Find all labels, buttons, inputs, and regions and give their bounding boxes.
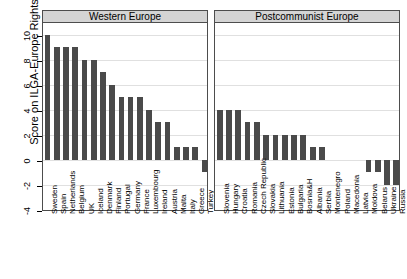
bar — [300, 135, 306, 160]
x-axis-tick-label: Montenegro — [333, 171, 343, 214]
x-axis-tick-label: Bosnia&H — [305, 178, 315, 214]
y-axis-tick: 2 — [0, 136, 42, 137]
bar — [54, 47, 60, 160]
bar — [155, 122, 161, 160]
x-axis-tick-label: Ireland — [160, 190, 170, 214]
bar — [183, 147, 189, 160]
y-axis-tick: 10 — [0, 36, 42, 37]
panel-title-western-europe: Western Europe — [42, 10, 208, 23]
bar — [217, 110, 223, 160]
bar — [128, 97, 134, 160]
bar — [319, 147, 325, 160]
x-axis-tick-label: Moldova — [370, 184, 380, 214]
y-axis-tick-label: 2 — [20, 128, 34, 144]
bar — [119, 97, 125, 160]
gridline — [215, 160, 399, 161]
x-axis-tick-label: Portugal — [123, 184, 133, 214]
gridline — [215, 60, 399, 61]
y-axis: 1086420-2-4 — [0, 0, 42, 279]
bar — [310, 147, 316, 160]
bar — [192, 147, 198, 160]
y-axis-tick: 6 — [0, 86, 42, 87]
chart-figure: Score on ILGA-Europe Rights Index 108642… — [0, 0, 407, 279]
bar — [282, 135, 288, 160]
plot-area-western-europe — [42, 23, 208, 211]
bar — [263, 135, 269, 160]
bar — [165, 122, 171, 160]
bar — [45, 35, 51, 160]
y-axis-tick-label: 0 — [20, 153, 34, 169]
x-axis-tick-label: Croatia — [240, 188, 250, 214]
y-axis-tick: 4 — [0, 111, 42, 112]
y-axis-tick: -2 — [0, 186, 42, 187]
x-axis-tick-label: UK — [87, 203, 97, 214]
bar — [291, 135, 297, 160]
bar — [226, 110, 232, 160]
gridline — [215, 135, 399, 136]
bar — [245, 122, 251, 160]
x-axis-tick-label: Austria — [170, 189, 180, 214]
bar — [366, 160, 372, 173]
bar — [146, 110, 152, 160]
gridline — [215, 85, 399, 86]
gridline — [215, 110, 399, 111]
x-axis-tick-label: Russia — [398, 190, 407, 214]
y-axis-tick-mark — [37, 211, 42, 212]
gridline — [215, 35, 399, 36]
bar — [137, 97, 143, 160]
y-axis-tick: 8 — [0, 61, 42, 62]
y-axis-tick-label: 10 — [20, 28, 34, 44]
y-axis-tick-label: 4 — [20, 103, 34, 119]
panel-title-postcommunist-europe: Postcommunist Europe — [214, 10, 400, 23]
bar — [174, 147, 180, 160]
bar — [393, 160, 399, 185]
bar — [109, 85, 115, 160]
bar — [72, 47, 78, 160]
bar — [202, 160, 208, 173]
x-axis-labels-western-europe: SwedenSpainNetherlandsBelgiumUKIcelandDe… — [42, 214, 208, 279]
bar — [82, 60, 88, 160]
gridline — [43, 160, 207, 161]
y-axis-tick-label: 6 — [20, 78, 34, 94]
y-axis-tick-label: -4 — [20, 203, 34, 219]
bar — [91, 60, 97, 160]
x-axis-tick-label: Belgium — [77, 185, 87, 214]
bar — [100, 72, 106, 160]
y-axis-tick-label: -2 — [20, 178, 34, 194]
y-axis-tick-label: 8 — [20, 53, 34, 69]
y-axis-tick: 0 — [0, 161, 42, 162]
bar — [273, 135, 279, 160]
bar — [235, 110, 241, 160]
x-axis-tick-label: Lithuania — [277, 182, 287, 214]
y-axis-tick: -4 — [0, 211, 42, 212]
bar — [63, 47, 69, 160]
gridline — [43, 35, 207, 36]
panel-western-europe: Western Europe — [42, 10, 208, 211]
bar — [375, 160, 381, 173]
bar — [254, 122, 260, 160]
x-axis-labels-postcommunist-europe: SloveniaHungaryCroatiaRomaniaCzech Repub… — [214, 214, 400, 279]
bar — [384, 160, 390, 185]
